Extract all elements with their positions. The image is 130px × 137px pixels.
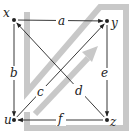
arrow-labels: a b c d e f xyxy=(9,14,110,126)
arrow-label-e: e xyxy=(101,66,108,80)
labels-svg: x y u z a b c d e f xyxy=(0,0,130,137)
node-label-u: u xyxy=(4,113,12,127)
diagram-canvas: x y u z a b c d e f xyxy=(0,0,130,137)
node-label-z: z xyxy=(109,115,117,129)
node-label-y: y xyxy=(110,16,118,30)
arrow-label-a: a xyxy=(58,14,65,28)
arrow-label-c: c xyxy=(37,85,44,99)
node-label-x: x xyxy=(3,6,10,20)
arrow-label-b: b xyxy=(10,66,18,80)
arrow-label-d: d xyxy=(75,84,83,98)
